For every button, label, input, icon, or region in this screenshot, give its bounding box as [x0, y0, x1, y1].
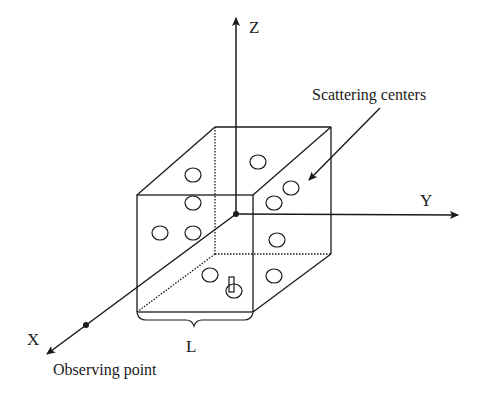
- z-axis-label: Z: [249, 18, 259, 37]
- length-label: L: [186, 337, 196, 356]
- origin-dot: [233, 211, 239, 217]
- scattering-centers-label: Scattering centers: [312, 86, 426, 104]
- scattering-center: [266, 196, 282, 210]
- observing-point-dot: [83, 322, 89, 328]
- scattering-cube-diagram: Z Y X Scattering centers L Observing poi…: [0, 0, 487, 398]
- scattering-center: [185, 196, 201, 210]
- scattering-pointer-arrow: [309, 108, 380, 180]
- scattering-center: [269, 233, 285, 247]
- scattering-centers: [152, 155, 299, 298]
- cube-bottom-left-hidden-edge: [137, 254, 215, 312]
- scattering-center: [202, 268, 218, 282]
- scattering-center: [185, 168, 201, 182]
- cube-bottom-right-edge: [253, 254, 331, 312]
- scattering-center: [266, 269, 282, 283]
- length-brace: [137, 313, 253, 326]
- observing-point-label: Observing point: [53, 361, 157, 379]
- scattering-center: [283, 181, 299, 195]
- scattering-center: [152, 226, 168, 240]
- y-axis-label: Y: [420, 191, 432, 210]
- scattering-center: [185, 226, 201, 240]
- y-axis: [236, 214, 458, 215]
- cube-top-left-edge: [137, 127, 215, 195]
- x-axis: [47, 214, 236, 354]
- cube-top-right-edge: [253, 127, 331, 195]
- scattering-center: [250, 155, 266, 169]
- x-axis-label: X: [27, 330, 39, 349]
